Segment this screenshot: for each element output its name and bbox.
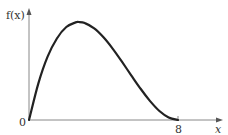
x-axis-arrow-icon [216, 118, 223, 123]
x-axis-label: x [215, 123, 222, 135]
x-tick-label-8: 8 [175, 123, 182, 135]
y-axis-arrow-icon [27, 8, 32, 15]
y-axis-label: f(x) [6, 9, 25, 22]
chart: f(x) x 0 8 [0, 0, 228, 135]
origin-label: 0 [19, 116, 26, 129]
density-curve [29, 22, 178, 120]
